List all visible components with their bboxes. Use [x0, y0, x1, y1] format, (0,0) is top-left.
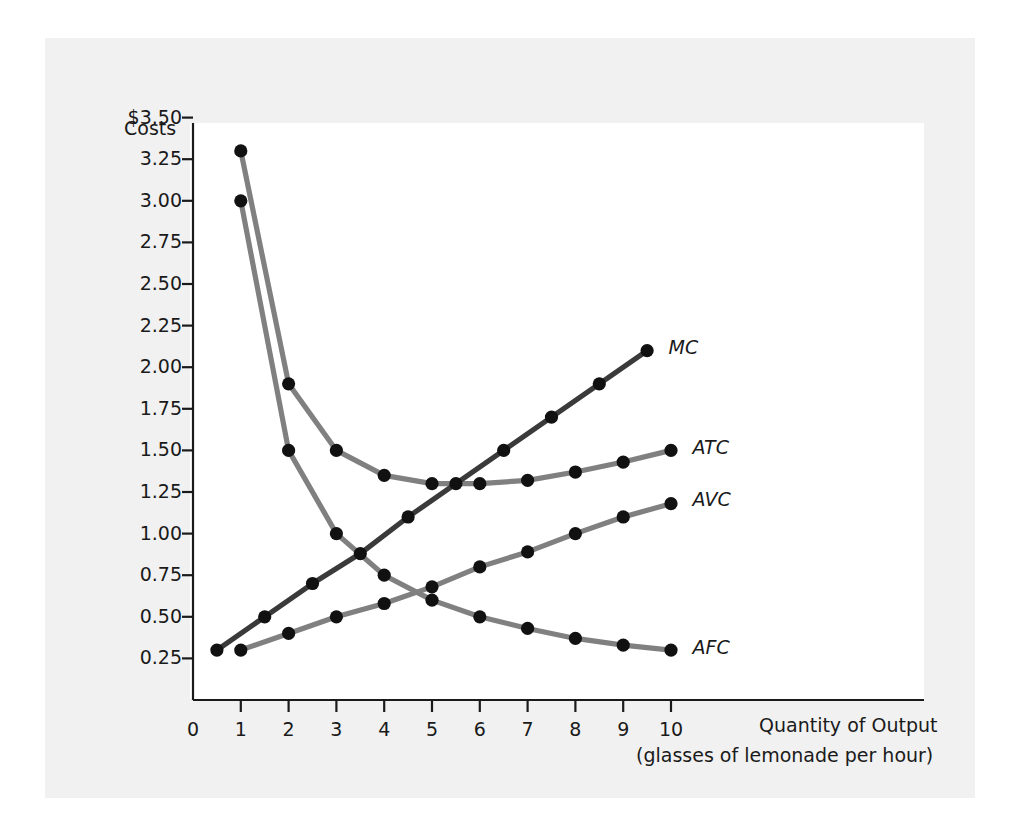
data-point-avc-6: [521, 545, 534, 558]
data-point-afc-7: [569, 632, 582, 645]
y-tick-label-13: $3.50: [96, 108, 182, 127]
data-point-afc-5: [473, 610, 486, 623]
x-tick-label-7: 7: [508, 720, 548, 739]
x-axis-title-line1: Quantity of Output: [759, 714, 938, 736]
x-tick-label-4: 4: [364, 720, 404, 739]
x-tick-label-5: 5: [412, 720, 452, 739]
data-point-afc-4: [425, 594, 438, 607]
data-point-avc-3: [378, 597, 391, 610]
data-point-avc-8: [617, 510, 630, 523]
data-point-atc-7: [569, 465, 582, 478]
x-tick-label-1: 1: [221, 720, 261, 739]
curve-label-avc: AVC: [693, 488, 731, 510]
data-point-mc-9: [641, 344, 654, 357]
curve-label-afc: AFC: [693, 636, 730, 658]
y-tick-label-3: 1.00: [96, 524, 182, 543]
data-point-mc-0: [210, 643, 223, 656]
y-tick-label-5: 1.50: [96, 440, 182, 459]
data-point-mc-2: [306, 577, 319, 590]
data-point-atc-3: [378, 469, 391, 482]
curve-line-atc: [241, 151, 671, 484]
y-tick-label-0: 0.25: [96, 648, 182, 667]
data-point-atc-8: [617, 455, 630, 468]
curve-label-atc: ATC: [693, 436, 730, 458]
data-point-afc-8: [617, 638, 630, 651]
data-point-afc-9: [664, 643, 677, 656]
x-axis-title-line2: (glasses of lemonade per hour): [636, 744, 933, 766]
y-tick-label-4: 1.25: [96, 482, 182, 501]
data-point-avc-1: [282, 627, 295, 640]
y-tick-label-10: 2.75: [96, 232, 182, 251]
data-point-avc-5: [473, 560, 486, 573]
data-point-mc-6: [497, 444, 510, 457]
y-tick-label-12: 3.25: [96, 149, 182, 168]
x-tick-label-2: 2: [269, 720, 309, 739]
data-point-atc-2: [330, 444, 343, 457]
y-tick-label-9: 2.50: [96, 274, 182, 293]
curve-line-avc: [241, 504, 671, 650]
series-avc: [234, 497, 677, 657]
data-point-atc-5: [473, 477, 486, 490]
data-point-afc-0: [234, 194, 247, 207]
y-tick-label-1: 0.50: [96, 607, 182, 626]
data-point-afc-6: [521, 622, 534, 635]
data-point-atc-4: [425, 477, 438, 490]
curve-line-afc: [241, 201, 671, 650]
curve-label-mc: MC: [669, 336, 699, 358]
y-tick-label-6: 1.75: [96, 399, 182, 418]
data-point-mc-4: [402, 510, 415, 523]
data-point-avc-2: [330, 610, 343, 623]
data-point-avc-9: [664, 497, 677, 510]
x-tick-label-10: 10: [651, 720, 691, 739]
y-tick-label-7: 2.00: [96, 357, 182, 376]
x-tick-label-0: 0: [173, 720, 213, 739]
x-tick-label-3: 3: [316, 720, 356, 739]
data-point-avc-4: [425, 580, 438, 593]
data-point-atc-9: [664, 444, 677, 457]
data-point-mc-5: [449, 477, 462, 490]
x-tick-label-8: 8: [555, 720, 595, 739]
data-point-afc-2: [330, 527, 343, 540]
data-point-mc-1: [258, 610, 271, 623]
data-point-atc-1: [282, 377, 295, 390]
data-point-mc-8: [593, 377, 606, 390]
data-point-afc-1: [282, 444, 295, 457]
figure-screenshot: Costs0.250.500.751.001.251.501.752.002.2…: [0, 0, 1023, 821]
x-tick-label-9: 9: [603, 720, 643, 739]
data-point-atc-0: [234, 144, 247, 157]
data-point-mc-3: [354, 547, 367, 560]
y-tick-label-11: 3.00: [96, 191, 182, 210]
data-point-afc-3: [378, 569, 391, 582]
data-point-atc-6: [521, 474, 534, 487]
series-afc: [234, 194, 677, 656]
series-atc: [234, 144, 677, 490]
y-tick-label-2: 0.75: [96, 565, 182, 584]
data-point-avc-7: [569, 527, 582, 540]
data-point-avc-0: [234, 643, 247, 656]
x-tick-label-6: 6: [460, 720, 500, 739]
y-tick-label-8: 2.25: [96, 316, 182, 335]
data-point-mc-7: [545, 411, 558, 424]
